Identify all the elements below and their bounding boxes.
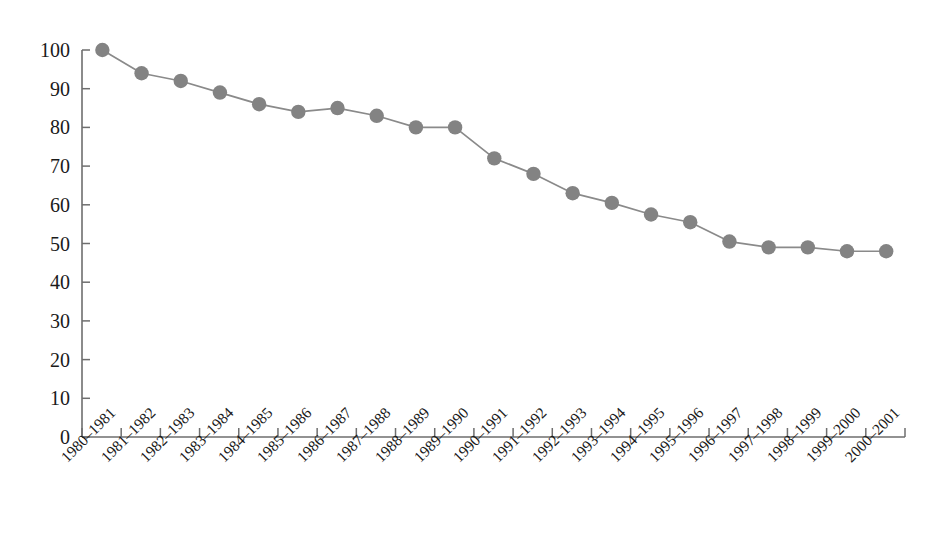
- data-point-marker: [565, 186, 579, 200]
- data-point-marker: [95, 43, 109, 57]
- y-tick-label: 0: [24, 427, 70, 447]
- chart-plot-area: [0, 0, 941, 560]
- data-point-marker: [134, 66, 148, 80]
- y-tick-label: 90: [24, 79, 70, 99]
- data-point-marker: [840, 244, 854, 258]
- data-point-marker: [330, 101, 344, 115]
- y-tick-label: 100: [24, 40, 70, 60]
- data-point-marker: [291, 105, 305, 119]
- data-point-marker: [761, 240, 775, 254]
- data-point-marker: [174, 74, 188, 88]
- data-point-marker: [526, 167, 540, 181]
- data-point-marker: [487, 151, 501, 165]
- data-point-marker: [605, 196, 619, 210]
- series-line: [102, 50, 886, 251]
- y-tick-label: 10: [24, 388, 70, 408]
- data-point-marker: [213, 85, 227, 99]
- data-point-marker: [801, 240, 815, 254]
- data-point-marker: [448, 120, 462, 134]
- y-tick-label: 20: [24, 350, 70, 370]
- data-point-marker: [252, 97, 266, 111]
- data-point-marker: [722, 234, 736, 248]
- chart-axes: [82, 50, 905, 437]
- y-tick-label: 80: [24, 117, 70, 137]
- y-tick-label: 30: [24, 311, 70, 331]
- data-point-marker: [683, 215, 697, 229]
- y-tick-label: 50: [24, 234, 70, 254]
- data-point-marker: [370, 109, 384, 123]
- data-point-marker: [879, 244, 893, 258]
- y-tick-label: 70: [24, 156, 70, 176]
- data-point-marker: [409, 120, 423, 134]
- y-tick-label: 40: [24, 272, 70, 292]
- line-chart: 0102030405060708090100 1980–19811981–198…: [0, 0, 941, 560]
- data-point-marker: [644, 207, 658, 221]
- chart-series: [95, 43, 893, 259]
- y-tick-label: 60: [24, 195, 70, 215]
